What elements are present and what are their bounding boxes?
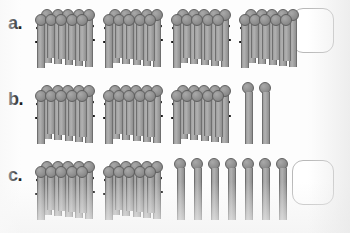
stick — [283, 23, 291, 61]
problem-row-a: a. — [0, 0, 350, 78]
stick — [47, 175, 55, 210]
stick — [194, 23, 202, 59]
stick — [204, 99, 212, 136]
stick — [262, 92, 270, 144]
bundle-of-ten — [36, 4, 94, 72]
stick — [115, 99, 123, 134]
stick — [183, 23, 191, 58]
stick — [228, 168, 236, 220]
stick — [251, 23, 259, 58]
stick — [215, 23, 223, 61]
stick — [115, 175, 123, 210]
bundle-of-ten — [104, 156, 162, 224]
stick-head — [212, 14, 224, 26]
stick — [68, 99, 76, 136]
stick — [147, 99, 155, 137]
stick — [177, 168, 185, 220]
bundle-of-ten — [104, 80, 162, 148]
stick — [262, 23, 270, 59]
single-stick — [240, 80, 257, 148]
stick-groups-b — [36, 80, 274, 148]
stick — [126, 175, 134, 211]
bundle-of-ten — [36, 156, 94, 224]
problem-row-b: b. — [0, 76, 350, 154]
stick — [194, 99, 202, 135]
bundle-of-ten — [172, 4, 230, 72]
stick — [204, 23, 212, 60]
stick-head — [76, 14, 88, 26]
stick — [68, 175, 76, 212]
bundle-of-ten — [36, 80, 94, 148]
stick — [136, 175, 144, 212]
stick — [279, 168, 287, 220]
single-stick — [257, 156, 274, 224]
bundle-sticks — [172, 80, 230, 148]
stick — [126, 99, 134, 135]
stick — [215, 99, 223, 137]
stick — [115, 23, 123, 58]
single-stick — [223, 156, 240, 224]
stick — [105, 99, 113, 144]
stick — [47, 23, 55, 58]
single-stick — [206, 156, 223, 224]
bundle-of-ten — [104, 4, 162, 72]
bundle-sticks — [36, 4, 94, 72]
stick — [136, 99, 144, 136]
stick — [173, 23, 181, 68]
bundle-sticks — [240, 4, 298, 72]
single-sticks-group — [240, 80, 274, 148]
row-label-b: b. — [8, 90, 23, 108]
stick — [241, 23, 249, 68]
stick — [105, 23, 113, 68]
stick-head — [144, 14, 156, 26]
bundle-of-ten — [172, 80, 230, 148]
stick — [79, 99, 87, 137]
stick — [245, 168, 253, 220]
stick — [136, 23, 144, 60]
problem-row-c: c. — [0, 152, 350, 230]
stick — [194, 168, 202, 220]
stick — [58, 175, 66, 211]
stick — [272, 23, 280, 60]
bundle-of-ten — [240, 4, 298, 72]
stick — [173, 99, 181, 144]
single-stick — [172, 156, 189, 224]
stick — [262, 168, 270, 220]
stick — [147, 23, 155, 61]
stick — [79, 23, 87, 61]
stick — [58, 23, 66, 59]
stick-head — [144, 90, 156, 102]
bundle-sticks — [104, 4, 162, 72]
stick-head — [76, 90, 88, 102]
row-label-a: a. — [8, 14, 22, 32]
stick-head — [76, 166, 88, 178]
stick — [147, 175, 155, 213]
stick — [47, 99, 55, 134]
stick-groups-a — [36, 4, 308, 72]
bundle-sticks — [104, 156, 162, 224]
single-stick — [274, 156, 291, 224]
stick-groups-c — [36, 156, 291, 224]
stick-head — [212, 90, 224, 102]
stick — [245, 92, 253, 144]
stick — [58, 99, 66, 135]
stick-head — [280, 14, 292, 26]
stick — [183, 99, 191, 134]
single-sticks-group — [172, 156, 291, 224]
bundle-sticks — [36, 156, 94, 224]
stick — [211, 168, 219, 220]
stick — [37, 23, 45, 68]
single-stick — [240, 156, 257, 224]
stick — [105, 175, 113, 220]
stick — [126, 23, 134, 59]
single-stick — [189, 156, 206, 224]
row-label-c: c. — [8, 166, 22, 184]
bundle-sticks — [36, 80, 94, 148]
bundle-sticks — [172, 4, 230, 72]
stick — [37, 99, 45, 144]
stick — [79, 175, 87, 213]
single-stick — [257, 80, 274, 148]
stick-head — [144, 166, 156, 178]
worksheet: a. b. c. — [0, 0, 350, 233]
stick — [68, 23, 76, 60]
